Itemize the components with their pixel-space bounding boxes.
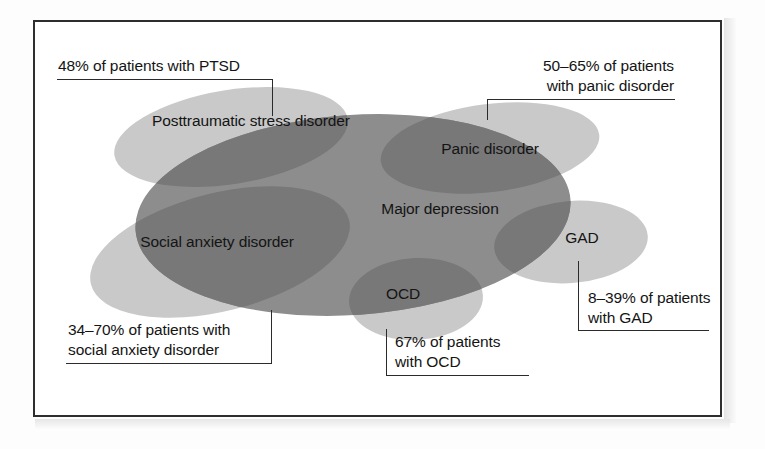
leader-line-ocd-vertical xyxy=(386,329,387,376)
page-edge-shadow-bottom xyxy=(35,419,730,429)
annotation-panic-line2: with panic disorder xyxy=(468,76,674,96)
leader-line-panic-horizontal xyxy=(487,99,675,100)
annotation-panic-disorder: 50–65% of patients with panic disorder xyxy=(468,56,674,96)
annotation-ptsd: 48% of patients with PTSD xyxy=(58,56,240,76)
leader-line-ocd-horizontal xyxy=(386,375,529,376)
label-panic-line1: Panic disorder xyxy=(441,140,539,157)
leader-line-social-anxiety-horizontal xyxy=(66,363,272,364)
leader-line-social-anxiety-vertical xyxy=(271,310,272,364)
annotation-gad-line1: 8–39% of patients xyxy=(588,288,710,308)
label-panic-disorder: Panic disorder xyxy=(410,139,570,158)
leader-line-ptsd-vertical xyxy=(272,79,273,116)
annotation-ptsd-line1: 48% of patients with PTSD xyxy=(58,56,240,76)
annotation-social-anxiety-line2: social anxiety disorder xyxy=(68,340,230,360)
label-major-depression-line2: depression xyxy=(424,200,499,217)
leader-line-panic-vertical xyxy=(487,99,488,120)
label-major-depression-line1: Major xyxy=(381,200,419,217)
annotation-panic-line1: 50–65% of patients xyxy=(468,56,674,76)
label-social-anxiety-line2: disorder xyxy=(239,233,294,250)
label-ocd-line1: OCD xyxy=(386,285,420,302)
label-gad-line1: GAD xyxy=(565,229,598,246)
label-gad: GAD xyxy=(542,228,622,247)
annotation-social-anxiety: 34–70% of patients with social anxiety d… xyxy=(68,320,230,360)
annotation-gad-line2: with GAD xyxy=(588,308,710,328)
annotation-ocd-line1: 67% of patients xyxy=(395,332,500,352)
label-social-anxiety-line1: Social anxiety xyxy=(140,233,234,250)
figure-screenshot: Posttraumatic stress disorder Panic diso… xyxy=(0,0,765,449)
leader-line-gad-horizontal xyxy=(578,330,709,331)
annotation-social-anxiety-line1: 34–70% of patients with xyxy=(68,320,230,340)
leader-line-gad-vertical xyxy=(578,261,579,331)
label-social-anxiety-disorder: Social anxiety disorder xyxy=(133,232,301,251)
label-ptsd-line2: stress disorder xyxy=(250,112,350,129)
label-ocd: OCD xyxy=(358,284,448,303)
annotation-ocd: 67% of patients with OCD xyxy=(395,332,500,372)
leader-line-ptsd-horizontal xyxy=(57,79,273,80)
annotation-gad: 8–39% of patients with GAD xyxy=(588,288,710,328)
label-ptsd-line1: Posttraumatic xyxy=(152,112,245,129)
label-major-depression: Major depression xyxy=(365,199,515,218)
annotation-ocd-line2: with OCD xyxy=(395,352,500,372)
label-ptsd: Posttraumatic stress disorder xyxy=(152,111,320,130)
page-edge-shadow-right xyxy=(724,18,736,423)
